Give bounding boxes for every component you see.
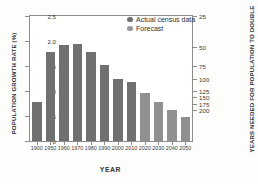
bar-1980 xyxy=(86,52,96,141)
right-tick-label: 50 xyxy=(199,44,221,51)
legend-item-forecast: Forecast xyxy=(127,25,195,32)
x-tick-label: 2010 xyxy=(125,145,139,151)
x-axis-title: YEAR xyxy=(28,166,193,173)
bar-2050 xyxy=(181,117,191,142)
bar-2020 xyxy=(140,93,150,142)
bar-2000 xyxy=(113,79,123,142)
legend-label-actual: Actual census data xyxy=(136,16,195,23)
x-tick-label: 2030 xyxy=(152,145,166,151)
right-tick-label: 25 xyxy=(199,13,221,20)
left-tick-mark xyxy=(25,16,29,17)
x-tick-label: 2040 xyxy=(165,145,179,151)
bar-slot xyxy=(152,16,166,141)
bar-1970 xyxy=(73,44,83,141)
left-tick-mark xyxy=(25,116,29,117)
bar-slot xyxy=(111,16,125,141)
bar-1990 xyxy=(100,65,110,141)
population-growth-rate-chart: POPULATION GROWTH RATE (%) YEARS NEEDED … xyxy=(0,0,258,184)
bar-slot xyxy=(165,16,179,141)
x-tick-label: 1900 xyxy=(30,145,44,151)
bar-2040 xyxy=(167,110,177,142)
bar-1950 xyxy=(46,52,56,141)
bar-slot xyxy=(179,16,193,141)
right-tick-mark xyxy=(193,47,197,48)
bar-slot xyxy=(71,16,85,141)
right-tick-mark xyxy=(193,79,197,80)
bar-slot xyxy=(84,16,98,141)
left-tick-mark xyxy=(25,66,29,67)
x-tick-label: 2020 xyxy=(138,145,152,151)
legend-dot-icon-forecast xyxy=(127,26,133,32)
bar-slot xyxy=(57,16,71,141)
legend-dot-icon-actual xyxy=(127,17,133,23)
left-axis-title: POPULATION GROWTH RATE (%) xyxy=(10,24,17,144)
left-tick-mark xyxy=(25,141,29,142)
right-tick-mark xyxy=(193,97,197,98)
chart-legend: Actual census data Forecast xyxy=(127,16,195,34)
bar-slot xyxy=(44,16,58,141)
x-tick-label: 1970 xyxy=(71,145,85,151)
bar-slot xyxy=(138,16,152,141)
x-axis-tick-labels: 1900195019601970198019902000201020202030… xyxy=(30,145,192,151)
right-tick-label: 100 xyxy=(199,75,221,82)
bar-slot xyxy=(30,16,44,141)
left-tick-mark xyxy=(25,91,29,92)
bar-series xyxy=(30,16,192,141)
bar-1900 xyxy=(32,102,42,141)
bar-slot xyxy=(98,16,112,141)
x-tick-label: 1950 xyxy=(44,145,58,151)
right-tick-label: 75 xyxy=(199,63,221,70)
right-tick-mark xyxy=(193,91,197,92)
legend-label-forecast: Forecast xyxy=(136,25,163,32)
right-tick-mark xyxy=(193,104,197,105)
bar-slot xyxy=(125,16,139,141)
legend-item-actual: Actual census data xyxy=(127,16,195,23)
right-tick-mark xyxy=(193,66,197,67)
x-tick-label: 1980 xyxy=(84,145,98,151)
bar-2010 xyxy=(127,82,137,141)
x-tick-label: 2000 xyxy=(111,145,125,151)
x-tick-label: 1960 xyxy=(57,145,71,151)
right-tick-label: 200 xyxy=(199,106,221,113)
x-tick-label: 1990 xyxy=(98,145,112,151)
right-axis-title: YEARS NEEDED FOR POPULATION TO DOUBLE xyxy=(248,23,255,153)
bar-2030 xyxy=(154,102,164,141)
left-tick-mark xyxy=(25,41,29,42)
right-tick-mark xyxy=(193,110,197,111)
x-tick-label: 2050 xyxy=(179,145,193,151)
bar-1960 xyxy=(59,45,69,142)
